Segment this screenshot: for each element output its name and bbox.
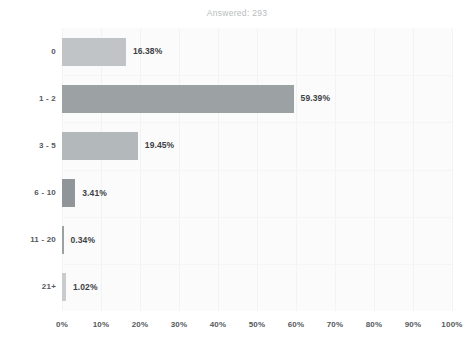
x-axis-tick-label: 20% — [132, 320, 149, 329]
bar-11-20 — [62, 226, 64, 254]
y-axis-tick-label: 3 - 5 — [39, 141, 56, 150]
bar-6-10 — [62, 179, 75, 207]
y-axis-tick-label: 0 — [51, 47, 56, 56]
x-axis-tick-label: 70% — [327, 320, 344, 329]
x-axis-tick-label: 100% — [441, 320, 462, 329]
plot-area: 16.38%59.39%19.45%3.41%0.34%1.02% — [62, 28, 452, 311]
x-axis-tick-label: 0% — [56, 320, 68, 329]
x-axis-tick-label: 30% — [171, 320, 188, 329]
y-axis-tick-label: 21+ — [42, 282, 56, 291]
bar-value-label: 3.41% — [82, 188, 107, 198]
bar-21plus — [62, 273, 66, 301]
y-axis-tick-label: 11 - 20 — [30, 235, 56, 244]
y-axis-tick-label: 6 - 10 — [34, 188, 56, 197]
x-axis-tick-label: 80% — [366, 320, 383, 329]
bar-chart: Answered: 293 16.38%59.39%19.45%3.41%0.3… — [0, 0, 474, 356]
bar-3-5 — [62, 132, 138, 160]
x-axis-tick-label: 90% — [405, 320, 422, 329]
bar-value-label: 19.45% — [145, 140, 174, 150]
x-axis-tick-label: 40% — [210, 320, 227, 329]
bar-value-label: 59.39% — [301, 93, 330, 103]
x-axis-tick-label: 50% — [249, 320, 266, 329]
bar-0 — [62, 38, 126, 66]
chart-title: Answered: 293 — [0, 8, 474, 18]
bar-value-label: 16.38% — [133, 46, 162, 56]
y-axis-tick-label: 1 - 2 — [39, 94, 56, 103]
bar-value-label: 1.02% — [73, 282, 98, 292]
y-axis: 01 - 23 - 56 - 1011 - 2021+ — [0, 28, 56, 311]
x-axis: 0%10%20%30%40%50%60%70%80%90%100% — [62, 311, 452, 341]
bars-layer: 16.38%59.39%19.45%3.41%0.34%1.02% — [62, 28, 452, 311]
bar-1-2 — [62, 85, 294, 113]
gridline-vertical — [452, 28, 453, 311]
bar-value-label: 0.34% — [71, 235, 96, 245]
x-axis-tick-label: 10% — [93, 320, 110, 329]
x-axis-tick-label: 60% — [288, 320, 305, 329]
